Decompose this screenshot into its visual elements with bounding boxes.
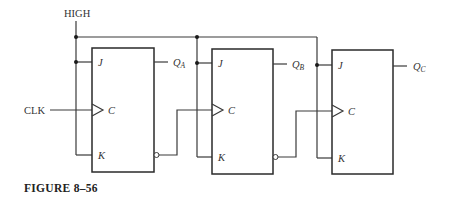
jk-flip-flop-counter-diagram: HIGH CLK J C K QA J C K QB: [0, 0, 453, 198]
ff-b-q-label: QB: [292, 59, 305, 72]
high-label: HIGH: [64, 8, 91, 19]
ff-b-qbar-to-ff-c-clock-wire: [278, 111, 332, 157]
figure-caption: FIGURE 8–56: [24, 182, 98, 194]
ff-c-k-pin: K: [337, 153, 346, 164]
inverted-output-bubble-icon: [154, 153, 159, 158]
ff-b-c-pin: C: [228, 105, 236, 116]
flip-flop-c: J C K QC: [332, 50, 427, 174]
ff-c-c-pin: C: [348, 106, 356, 117]
flip-flop-b: J C K QB: [212, 49, 305, 174]
junction-dot: [74, 60, 78, 64]
ff-a-c-pin: C: [108, 105, 116, 116]
junction-dot: [195, 61, 199, 65]
ff-a-k-pin: K: [97, 150, 106, 161]
flip-flop-a: J C K QA: [92, 48, 186, 172]
junction-dot: [315, 63, 319, 67]
junction-dot: [195, 35, 199, 39]
ff-a-q-label: QA: [173, 57, 186, 70]
junction-dot: [74, 35, 78, 39]
inverted-output-bubble-icon: [273, 155, 278, 160]
ff-b-k-pin: K: [217, 152, 226, 163]
ff-a-qbar-to-ff-b-clock-wire: [159, 110, 212, 155]
ff-c-q-label: QC: [413, 61, 427, 74]
clk-label: CLK: [24, 105, 45, 116]
